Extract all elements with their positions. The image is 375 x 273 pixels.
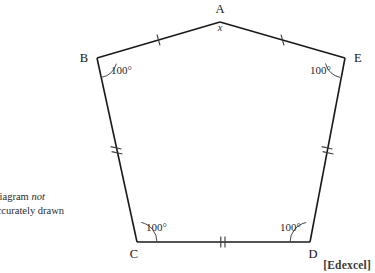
- vertex-label-B: B: [80, 51, 88, 65]
- edge-DE: [310, 58, 345, 242]
- angle-label-D: 100°: [280, 221, 301, 233]
- angle-label-B: 100°: [111, 64, 132, 76]
- angle-label-C: 100°: [146, 221, 167, 233]
- edge-BC: [97, 58, 137, 242]
- vertex-label-A: A: [215, 2, 224, 16]
- angle-label-E: 100°: [310, 64, 331, 76]
- vertex-label-D: D: [308, 247, 317, 261]
- exam-board-credit: [Edexcel]: [323, 259, 371, 271]
- angle-label-A: x: [217, 22, 223, 33]
- pentagon-diagram: A B C D E x 100° 100° 100° 100°: [0, 0, 375, 273]
- vertex-label-C: C: [130, 247, 138, 261]
- vertex-label-E: E: [354, 51, 362, 65]
- worksheet-page: n in D = DE. ed x° Diagram not accuratel…: [0, 0, 375, 273]
